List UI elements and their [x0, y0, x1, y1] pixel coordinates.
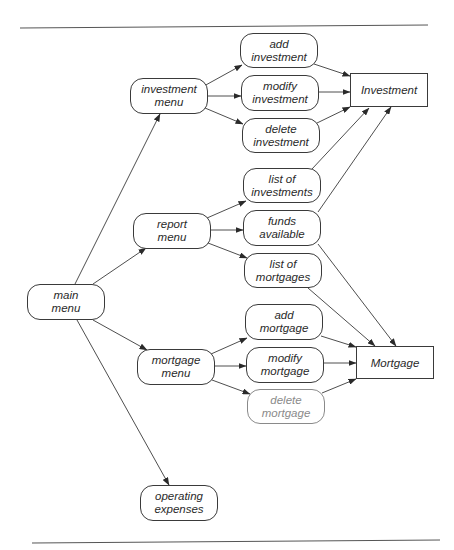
node-label: report — [157, 218, 187, 231]
top-rule — [20, 25, 428, 28]
edge-funds-to-investment — [318, 107, 391, 212]
node-label: available — [259, 228, 304, 241]
edge-delete-inv-to-investment — [317, 107, 350, 123]
node-label: mortgage — [260, 322, 309, 335]
node-add-investment: add investment — [240, 33, 318, 68]
entity-label: Investment — [361, 84, 417, 96]
edge-report-to-list-mort — [208, 243, 247, 258]
node-label: investment — [252, 93, 308, 106]
edge-list-inv-to-investment — [312, 108, 369, 169]
node-label: menu — [162, 367, 191, 380]
edge-main-to-mortgage-menu — [93, 320, 147, 350]
node-modify-investment: modify investment — [241, 75, 319, 111]
entity-label: Mortgage — [371, 357, 420, 369]
edge-report-to-list-inv — [207, 201, 246, 218]
node-label: menu — [155, 96, 184, 109]
node-add-mortgage: add mortgage — [245, 304, 323, 340]
edge-main-to-report-menu — [93, 248, 146, 284]
node-label: modify — [263, 80, 297, 93]
edge-main-to-operating-expenses — [77, 320, 169, 485]
node-delete-mortgage: delete mortgage — [247, 389, 325, 424]
node-label: modify — [268, 352, 302, 365]
edge-add-inv-to-investment — [314, 64, 350, 76]
node-mortgage-menu: mortgage menu — [137, 349, 215, 385]
node-label: main — [54, 289, 79, 302]
entity-investment: Investment — [350, 73, 428, 107]
node-label: mortgages — [256, 271, 310, 284]
node-label: delete — [265, 123, 296, 136]
edge-mortmenu-to-add — [211, 338, 247, 354]
node-report-menu: report menu — [133, 213, 211, 249]
node-list-of-mortgages: list of mortgages — [244, 253, 322, 288]
node-label: list of — [270, 258, 297, 271]
node-label: menu — [158, 231, 187, 244]
node-label: mortgage — [152, 354, 201, 367]
structure-chart-diagram: main menu investment menu report menu mo… — [0, 0, 454, 550]
node-label: delete — [270, 394, 301, 407]
node-delete-investment: delete investment — [242, 118, 320, 153]
node-label: operating — [155, 490, 203, 503]
node-label: mortgage — [262, 407, 311, 420]
edge-main-to-investment-menu — [75, 114, 160, 284]
node-label: add — [274, 309, 293, 322]
node-label: investments — [251, 186, 312, 199]
node-label: investment — [253, 136, 309, 149]
edge-mortmenu-to-delete — [212, 380, 250, 394]
node-investment-menu: investment menu — [130, 78, 208, 114]
edge-delete-mort-to-mortgage — [322, 379, 356, 393]
node-main-menu: main menu — [27, 284, 105, 320]
node-label: funds — [268, 215, 296, 228]
node-label: menu — [52, 302, 81, 315]
node-label: list of — [269, 173, 296, 186]
edge-add-mort-to-mortgage — [321, 336, 356, 347]
node-funds-available: funds available — [243, 210, 321, 246]
node-operating-expenses: operating expenses — [140, 485, 218, 521]
node-list-of-investments: list of investments — [243, 168, 321, 203]
edge-invmenu-to-delete — [205, 108, 243, 124]
node-label: add — [269, 38, 288, 51]
node-modify-mortgage: modify mortgage — [246, 347, 324, 383]
node-label: investment — [251, 51, 307, 64]
node-label: mortgage — [261, 365, 310, 378]
edge-invmenu-to-add — [204, 65, 242, 86]
entity-mortgage: Mortgage — [356, 346, 434, 379]
node-label: expenses — [154, 503, 203, 516]
bottom-rule — [32, 540, 440, 543]
node-label: investment — [141, 83, 197, 96]
